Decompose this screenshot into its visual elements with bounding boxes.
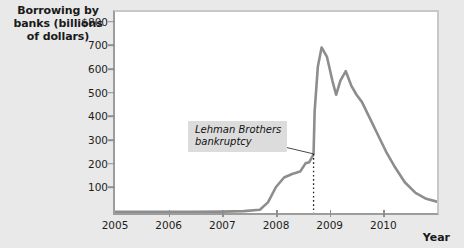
y-tick-mark-300 (108, 139, 115, 141)
y-axis-ticks: $800700600500400300200100 (58, 10, 108, 215)
y-tick-mark-800 (108, 21, 115, 23)
x-tick-label-2009: 2009 (316, 219, 343, 231)
x-tick-mark-2007 (222, 210, 224, 217)
chart-figure: Borrowing by banks (billions of dollars)… (0, 0, 464, 248)
x-tick-mark-2008 (276, 210, 278, 217)
plot-area (113, 10, 439, 215)
y-tick-label-100: 100 (62, 181, 108, 193)
y-tick-label-600: 600 (62, 63, 108, 75)
x-axis-title: Year (423, 231, 450, 244)
y-tick-mark-600 (108, 68, 115, 70)
x-tick-label-2006: 2006 (155, 219, 182, 231)
y-tick-label-200: 200 (62, 158, 108, 170)
x-tick-label-2005: 2005 (102, 219, 129, 231)
x-axis-ticks: 200520062007200820092010 (0, 219, 464, 233)
x-tick-label-2008: 2008 (263, 219, 290, 231)
x-tick-mark-2009 (330, 210, 332, 217)
annotation-lehman-brothers: Lehman Brothers bankruptcy (188, 121, 287, 152)
y-tick-mark-500 (108, 92, 115, 94)
y-tick-mark-200 (108, 163, 115, 165)
y-tick-mark-700 (108, 45, 115, 47)
y-tick-mark-100 (108, 187, 115, 189)
data-line-chart (115, 12, 437, 213)
y-tick-label-300: 300 (62, 134, 108, 146)
x-tick-mark-2006 (169, 210, 171, 217)
y-tick-label-700: 700 (62, 39, 108, 51)
y-tick-label-400: 400 (62, 110, 108, 122)
x-tick-label-2010: 2010 (370, 219, 397, 231)
y-tick-mark-400 (108, 116, 115, 118)
x-tick-mark-2010 (383, 210, 385, 217)
y-tick-label-500: 500 (62, 87, 108, 99)
y-tick-label-800: $800 (62, 16, 108, 28)
x-tick-label-2007: 2007 (209, 219, 236, 231)
